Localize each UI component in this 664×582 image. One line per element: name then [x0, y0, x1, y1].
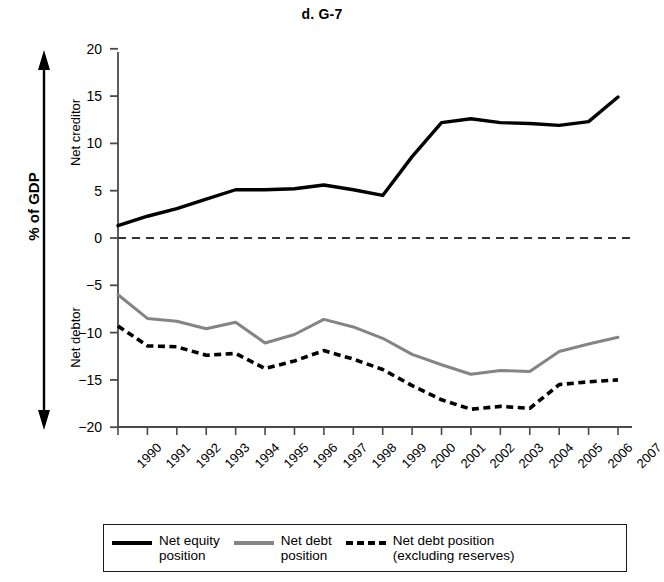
legend-swatch-solid-gray-icon: [234, 536, 274, 550]
legend-entry-net-equity-position: Net equity position: [112, 533, 220, 563]
chart-legend: Net equity position Net debt position Ne…: [103, 524, 627, 572]
legend-entry-net-debt-position: Net debt position: [234, 533, 332, 563]
legend-label: Net equity position: [159, 533, 220, 563]
data-series-layer: [118, 97, 618, 409]
x-axis-ticks: [118, 427, 618, 435]
legend-entry-net-debt-position-excluding-reserves: Net debt position (excluding reserves): [346, 533, 515, 563]
legend-swatch-dashed-black-icon: [346, 536, 386, 550]
series-line-net-debt-position-excluding-reserves: [118, 326, 618, 409]
y-axis-ticks: [110, 49, 118, 427]
legend-label: Net debt position (excluding reserves): [393, 533, 515, 563]
axis-lines: [118, 52, 632, 427]
series-line-net-debt-position: [118, 295, 618, 374]
series-line-net-equity-position: [118, 97, 618, 226]
legend-swatch-solid-black-icon: [112, 536, 152, 550]
creditor-debtor-arrow: [38, 50, 50, 430]
legend-label: Net debt position: [281, 533, 332, 563]
